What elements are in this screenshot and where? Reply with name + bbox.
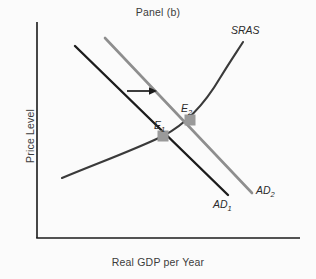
sras-curve bbox=[62, 42, 243, 178]
plot-canvas bbox=[0, 0, 316, 279]
economics-diagram-panel-b: Panel (b) SRAS AD1 AD2 E1 E2 Pric bbox=[0, 0, 316, 279]
equilibrium-label-e1: E1 bbox=[154, 119, 165, 134]
ad2-label: AD2 bbox=[256, 184, 275, 199]
y-axis-label: Price Level bbox=[24, 109, 36, 163]
equilibrium-label-e2: E2 bbox=[181, 102, 192, 117]
ad1-label: AD1 bbox=[213, 198, 232, 213]
ad1-curve bbox=[75, 46, 228, 195]
sras-label: SRAS bbox=[231, 24, 260, 36]
x-axis-label: Real GDP per Year bbox=[0, 256, 316, 268]
